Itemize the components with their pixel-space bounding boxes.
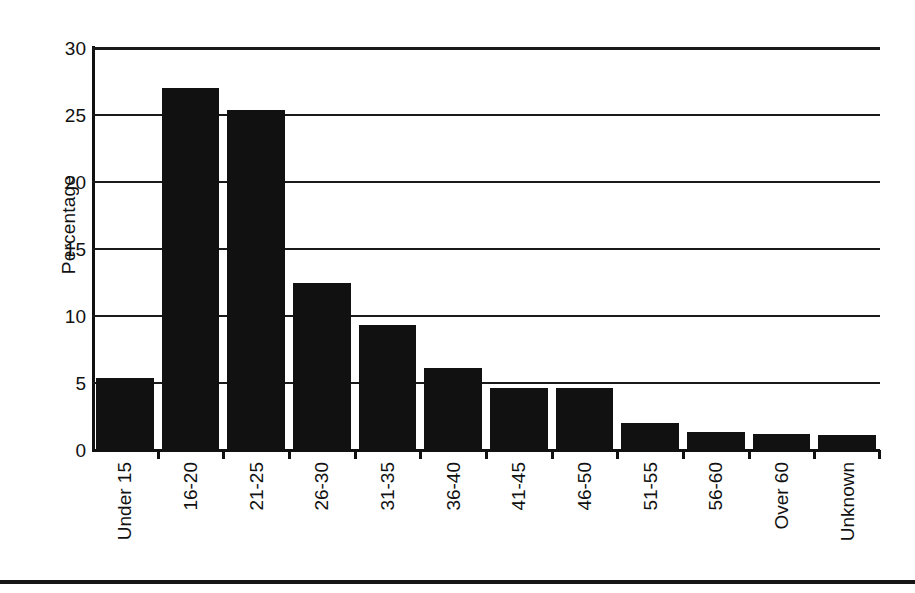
x-tick-label: 36-40 — [420, 462, 486, 572]
y-axis-tick-labels: 051015202530 — [46, 48, 86, 450]
x-tick-label: 41-45 — [486, 462, 552, 572]
x-tick-label: 46-50 — [552, 462, 618, 572]
x-tick-label: 26-30 — [289, 462, 355, 572]
x-tick-label-text: 21-25 — [247, 462, 266, 511]
y-tick-label: 0 — [75, 441, 86, 460]
bar-slot — [158, 48, 224, 450]
bar — [556, 388, 614, 450]
x-tick-mark — [616, 450, 619, 459]
bar-slot — [92, 48, 158, 450]
bottom-rule-divider — [0, 580, 915, 584]
bar — [96, 378, 154, 450]
bar-chart-figure: Percentage 051015202530 Under 1516-2021-… — [0, 0, 915, 593]
bar-slot — [420, 48, 486, 450]
bar-slot — [749, 48, 815, 450]
x-tick-mark — [682, 450, 685, 459]
x-tick-mark — [878, 450, 881, 459]
x-tick-label-text: 26-30 — [312, 462, 331, 511]
x-tick-mark — [813, 450, 816, 459]
x-tick-label: 51-55 — [617, 462, 683, 572]
bar-slot — [814, 48, 880, 450]
bar — [490, 388, 548, 450]
bar — [621, 423, 679, 450]
x-tick-label: 16-20 — [158, 462, 224, 572]
x-tick-label-text: 51-55 — [641, 462, 660, 511]
x-tick-label-text: 46-50 — [575, 462, 594, 511]
y-tick-label: 20 — [65, 173, 86, 192]
bar-slot — [223, 48, 289, 450]
x-tick-label: 56-60 — [683, 462, 749, 572]
x-tick-label: 21-25 — [223, 462, 289, 572]
y-tick-label: 30 — [65, 39, 86, 58]
bar-slot — [355, 48, 421, 450]
bars-layer — [92, 48, 880, 450]
y-tick-label: 5 — [75, 374, 86, 393]
bar-slot — [552, 48, 618, 450]
bar — [359, 325, 417, 450]
y-tick-label: 25 — [65, 106, 86, 125]
bar — [753, 434, 811, 450]
x-tick-label: Under 15 — [92, 462, 158, 572]
x-tick-mark — [222, 450, 225, 459]
x-tick-mark — [288, 450, 291, 459]
x-tick-label-text: Under 15 — [115, 462, 134, 540]
x-tick-label-text: Unknown — [838, 462, 857, 541]
bar — [424, 368, 482, 450]
x-tick-label-text: 31-35 — [378, 462, 397, 511]
x-tick-label-text: 16-20 — [181, 462, 200, 511]
bar — [687, 432, 745, 450]
x-tick-mark — [157, 450, 160, 459]
x-tick-label-text: 36-40 — [444, 462, 463, 511]
y-tick-label: 10 — [65, 307, 86, 326]
x-tick-label: Unknown — [814, 462, 880, 572]
x-tick-mark — [748, 450, 751, 459]
y-tick-label: 15 — [65, 240, 86, 259]
x-axis-ticks — [92, 450, 880, 459]
bar — [818, 435, 876, 450]
x-tick-mark — [551, 450, 554, 459]
bar — [227, 110, 285, 450]
bar — [293, 283, 351, 451]
x-tick-label: Over 60 — [749, 462, 815, 572]
x-tick-mark — [354, 450, 357, 459]
bar — [162, 88, 220, 450]
x-tick-label-text: Over 60 — [772, 462, 791, 530]
x-tick-mark — [485, 450, 488, 459]
x-tick-label: 31-35 — [355, 462, 421, 572]
x-axis-tick-labels: Under 1516-2021-2526-3031-3536-4041-4546… — [92, 462, 880, 572]
bar-slot — [289, 48, 355, 450]
bar-slot — [617, 48, 683, 450]
x-tick-label-text: 41-45 — [509, 462, 528, 511]
bar-slot — [486, 48, 552, 450]
x-tick-mark — [419, 450, 422, 459]
x-tick-label-text: 56-60 — [706, 462, 725, 511]
plot-area — [92, 48, 880, 450]
bar-slot — [683, 48, 749, 450]
